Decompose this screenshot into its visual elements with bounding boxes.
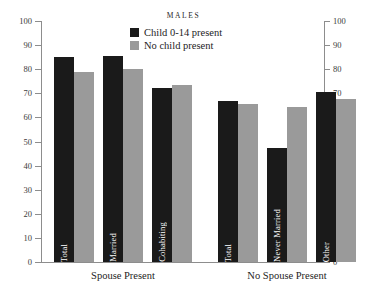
bar-married-no-child: [123, 69, 143, 262]
y-tick-label-left-40: 40: [24, 162, 33, 171]
y-tick-label-left-10: 10: [24, 234, 33, 243]
bar-never-married-no-child: [287, 107, 307, 262]
bar-total-child-present: [218, 101, 238, 262]
y-tick-label-left-50: 50: [24, 138, 33, 147]
y-tick-label-left-100: 100: [19, 17, 32, 26]
group-label-no-spouse-present: No Spouse Present: [247, 270, 326, 281]
bar-cohabiting-child-present: [152, 88, 172, 262]
bars-layer: TotalMarriedCohabitingTotalNever Married…: [41, 21, 325, 263]
group-label-spouse-present: Spouse Present: [91, 270, 155, 281]
plot-area: 1001009090808070706060505040403030202010…: [41, 21, 325, 263]
chart-title: MALES: [0, 11, 367, 20]
y-tick-label-left-20: 20: [24, 210, 33, 219]
y-tick-label-left-90: 90: [24, 41, 33, 50]
y-tick-label-left-0: 0: [28, 258, 32, 267]
y-tick-label-right-80: 80: [333, 65, 342, 74]
bar-other-child-present: [316, 92, 336, 262]
y-tick-label-right-100: 100: [333, 17, 346, 26]
y-tick-label-right-90: 90: [333, 41, 342, 50]
bar-cohabiting-no-child: [172, 85, 192, 262]
y-tick-label-left-60: 60: [24, 113, 33, 122]
bar-never-married-child-present: [267, 148, 287, 262]
y-tick-label-left-70: 70: [24, 89, 33, 98]
bar-other-no-child: [336, 99, 356, 262]
y-tick-label-left-80: 80: [24, 65, 33, 74]
y-tick-label-left-30: 30: [24, 186, 33, 195]
bar-total-no-child: [74, 72, 94, 262]
bar-total-child-present: [54, 57, 74, 262]
bar-chart: MALES Child 0-14 present No child presen…: [0, 0, 367, 294]
bar-total-no-child: [238, 104, 258, 262]
bar-married-child-present: [103, 56, 123, 262]
